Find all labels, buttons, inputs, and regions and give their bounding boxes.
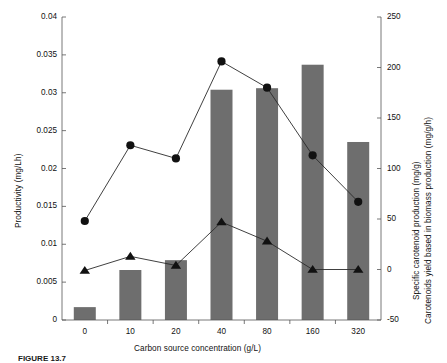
bar-0 xyxy=(74,307,96,320)
bar-40 xyxy=(211,90,233,320)
marker-triangle-0 xyxy=(80,266,90,274)
marker-circle-40 xyxy=(217,57,225,65)
x-tick-20: 20 xyxy=(156,327,196,336)
bar-160 xyxy=(302,65,324,320)
left-tick-0.005: 0.005 xyxy=(23,277,57,286)
marker-circle-10 xyxy=(126,141,134,149)
right-tick--50: -50 xyxy=(387,315,421,324)
bar-20 xyxy=(165,260,187,320)
left-tick-0.02: 0.02 xyxy=(23,164,57,173)
figure-root: Productivity (mg/Lh) Specific carotenoid… xyxy=(0,0,447,363)
bar-320 xyxy=(347,142,369,320)
marker-triangle-10 xyxy=(125,252,135,260)
marker-circle-80 xyxy=(263,84,271,92)
left-axis-title: Productivity (mg/Lh) xyxy=(14,154,23,228)
left-tick-0.025: 0.025 xyxy=(23,126,57,135)
left-tick-0: 0 xyxy=(23,315,57,324)
marker-circle-20 xyxy=(172,154,180,162)
left-tick-0.01: 0.01 xyxy=(23,239,57,248)
bar-80 xyxy=(256,88,278,320)
left-tick-0.03: 0.03 xyxy=(23,88,57,97)
x-tick-40: 40 xyxy=(202,327,242,336)
right-tick-50: 50 xyxy=(387,214,421,223)
figure-caption-label: FIGURE 13.7 xyxy=(18,354,66,363)
bar-series xyxy=(74,65,369,320)
x-tick-80: 80 xyxy=(247,327,287,336)
marker-circle-0 xyxy=(81,217,89,225)
x-tick-10: 10 xyxy=(110,327,150,336)
right-tick-250: 250 xyxy=(387,12,421,21)
left-tick-0.04: 0.04 xyxy=(23,12,57,21)
marker-circle-320 xyxy=(354,198,362,206)
right-axis-title-line1: Specific carotenoid production (mg/g) xyxy=(412,161,421,300)
right-tick-150: 150 xyxy=(387,113,421,122)
x-axis-title: Carbon source concentration (g/L) xyxy=(134,344,261,353)
chart-plot-area xyxy=(0,0,447,363)
right-tick-200: 200 xyxy=(387,63,421,72)
right-tick-0: 0 xyxy=(387,265,421,274)
x-tick-320: 320 xyxy=(338,327,378,336)
left-tick-0.015: 0.015 xyxy=(23,201,57,210)
x-tick-160: 160 xyxy=(293,327,333,336)
x-tick-0: 0 xyxy=(65,327,105,336)
figure-caption: FIGURE 13.7 xyxy=(18,354,438,363)
marker-circle-160 xyxy=(309,151,317,159)
right-tick-100: 100 xyxy=(387,164,421,173)
bar-10 xyxy=(119,270,141,320)
right-axis-title-line2: Carotenoids yield based in biomass produ… xyxy=(424,117,433,324)
left-tick-0.035: 0.035 xyxy=(23,50,57,59)
